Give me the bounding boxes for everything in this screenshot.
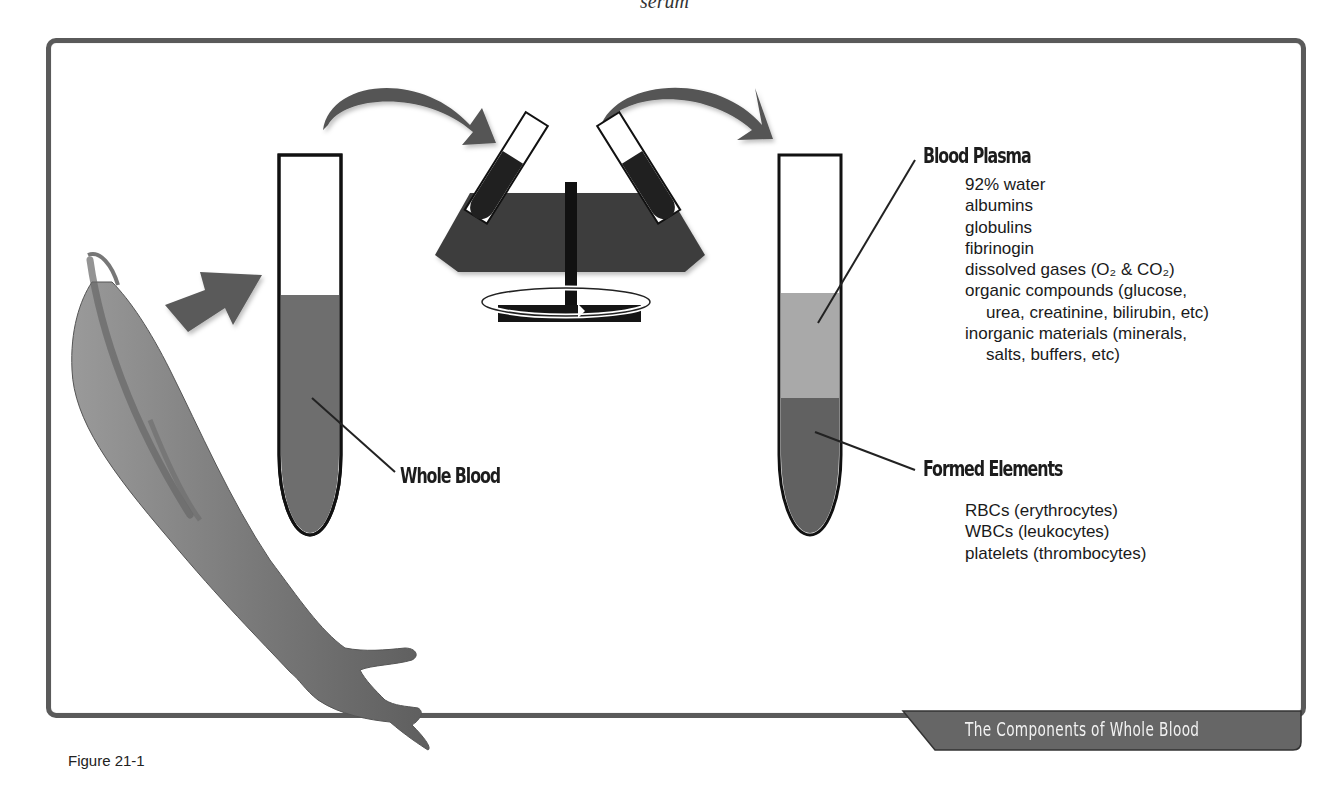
formed-elements-list: RBCs (erythrocytes) WBCs (leukocytes) pl…	[965, 500, 1146, 564]
straight-arrow-icon	[165, 272, 262, 332]
list-item: RBCs (erythrocytes)	[965, 500, 1146, 521]
list-item: dissolved gases (O₂ & CO₂)	[965, 259, 1209, 280]
whole-blood-label: Whole Blood	[400, 463, 500, 488]
list-item: urea, creatinine, bilirubin, etc)	[965, 302, 1209, 323]
list-item: globulins	[965, 217, 1209, 238]
figure-number: Figure 21-1	[68, 752, 145, 769]
separated-tube	[779, 155, 915, 535]
curved-arrow-icon	[323, 88, 496, 145]
list-item: fibrinogin	[965, 238, 1209, 259]
list-item: WBCs (leukocytes)	[965, 521, 1146, 542]
list-item: albumins	[965, 195, 1209, 216]
formed-elements-label: Formed Elements	[923, 456, 1062, 481]
figure-title: The Components of Whole Blood	[965, 718, 1199, 740]
list-item: salts, buffers, etc)	[965, 344, 1209, 365]
diagram-artwork	[0, 0, 1340, 790]
list-item: organic compounds (glucose,	[965, 280, 1209, 301]
list-item: inorganic materials (minerals,	[965, 323, 1209, 344]
blood-plasma-label: Blood Plasma	[923, 143, 1031, 168]
list-item: 92% water	[965, 174, 1209, 195]
arm-icon	[72, 254, 429, 750]
whole-blood-tube	[279, 155, 395, 535]
list-item: platelets (thrombocytes)	[965, 543, 1146, 564]
plasma-components-list: 92% water albumins globulins fibrinogin …	[965, 174, 1209, 366]
